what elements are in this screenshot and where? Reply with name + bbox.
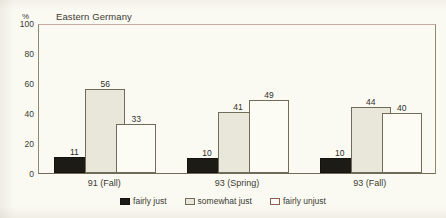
legend-swatch-icon	[270, 198, 280, 205]
legend-item[interactable]: fairly unjust	[270, 196, 326, 206]
x-axis-category-label: 93 (Fall)	[319, 178, 421, 188]
legend-item[interactable]: fairly just	[120, 196, 167, 206]
bar-value-label: 11	[70, 148, 79, 157]
bar-group: 104440	[320, 23, 422, 173]
legend-item-label: fairly just	[133, 196, 167, 206]
bar-value-label: 10	[202, 149, 211, 158]
chart-legend: fairly justsomewhat justfairly unjust	[0, 196, 446, 206]
bar-value-label: 10	[335, 149, 344, 158]
y-axis-tick-label: 100	[4, 20, 34, 29]
x-axis-category-label: 91 (Fall)	[53, 178, 155, 188]
bar: 49	[249, 100, 289, 174]
legend-item-label: fairly unjust	[283, 196, 326, 206]
legend-swatch-icon	[120, 198, 130, 205]
bar-group: 115633	[54, 23, 156, 173]
legend-swatch-icon	[185, 198, 195, 205]
y-axis-tick-label: 80	[4, 50, 34, 59]
y-axis-tick-label: 20	[4, 140, 34, 149]
bar-value-label: 33	[132, 115, 141, 124]
y-axis-tick-label: 60	[4, 80, 34, 89]
bar-value-label: 49	[264, 91, 273, 100]
y-axis-tick-label: 40	[4, 110, 34, 119]
bar-group: 104149	[187, 23, 289, 173]
bar: 33	[116, 124, 156, 174]
chart-title: Eastern Germany	[56, 11, 132, 22]
legend-item[interactable]: somewhat just	[185, 196, 252, 206]
bar-value-label: 44	[366, 98, 375, 107]
bar-value-label: 56	[101, 80, 110, 89]
bar-value-label: 41	[233, 103, 242, 112]
x-axis-category-label: 93 (Spring)	[186, 178, 288, 188]
bar-value-label: 40	[397, 104, 406, 113]
bar: 40	[382, 113, 422, 173]
y-axis-tick-label: 0	[4, 170, 34, 179]
plot-area: 115633104149104440	[38, 24, 436, 174]
legend-item-label: somewhat just	[198, 196, 252, 206]
bar-chart: % Eastern Germany 100806040200 115633104…	[0, 0, 446, 218]
